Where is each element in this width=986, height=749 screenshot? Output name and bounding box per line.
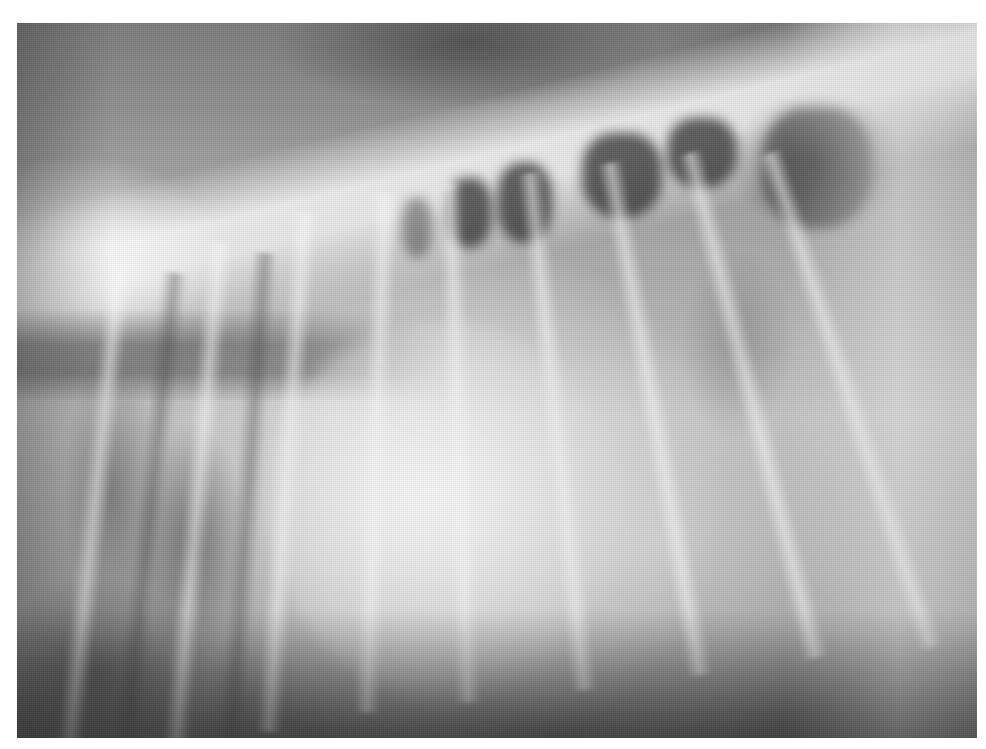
lung-pocket	[402, 198, 432, 258]
page: Grayscale lateral thoracic X-ray showing…	[0, 0, 986, 749]
image-description: Grayscale lateral thoracic X-ray showing…	[17, 23, 18, 24]
cardiac-silhouette	[267, 323, 627, 703]
radiograph-image: Grayscale lateral thoracic X-ray showing…	[17, 23, 977, 738]
